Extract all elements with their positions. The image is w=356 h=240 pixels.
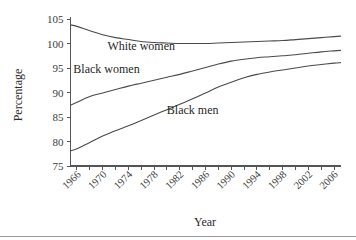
footer-divider xyxy=(0,236,356,237)
x-tick-label: 1974 xyxy=(112,168,135,191)
x-tick-label: 2002 xyxy=(292,169,315,192)
x-tick-label: 1994 xyxy=(240,168,263,191)
y-tick-label: 90 xyxy=(53,87,65,99)
series-line-black-women xyxy=(71,50,341,105)
chart-figure: 7580859095100105 19661970197419781982198… xyxy=(0,0,356,240)
y-axis-title: Percentage xyxy=(11,69,25,122)
x-tick-label: 1982 xyxy=(163,169,186,192)
x-tick-label: 1966 xyxy=(60,169,83,192)
x-tick-label: 1986 xyxy=(189,169,212,192)
y-tick-label: 105 xyxy=(47,13,64,25)
x-tick-label: 1978 xyxy=(137,169,160,192)
y-tick-label: 95 xyxy=(53,62,65,74)
series-label-black-men: Black men xyxy=(167,103,219,117)
x-tick-label: 1990 xyxy=(215,169,238,192)
y-tick-label: 80 xyxy=(53,136,65,148)
x-tick-label: 1998 xyxy=(266,169,289,192)
x-axis-title: Year xyxy=(194,215,216,229)
series-label-black-women: Black women xyxy=(73,62,139,76)
x-tick-label: 1970 xyxy=(86,169,109,192)
x-tick-labels: 1966197019741978198219861990199419982002… xyxy=(60,168,340,191)
y-tick-label: 85 xyxy=(53,111,65,123)
y-tick-label: 75 xyxy=(53,160,65,172)
y-tick-label: 100 xyxy=(47,38,64,50)
y-tick-labels: 7580859095100105 xyxy=(47,13,64,172)
x-tick-label: 2006 xyxy=(317,169,340,192)
series-inline-labels: White womenBlack womenBlack men xyxy=(73,39,218,117)
series-label-white-women: White women xyxy=(107,39,175,53)
line-chart: 7580859095100105 19661970197419781982198… xyxy=(0,0,356,240)
